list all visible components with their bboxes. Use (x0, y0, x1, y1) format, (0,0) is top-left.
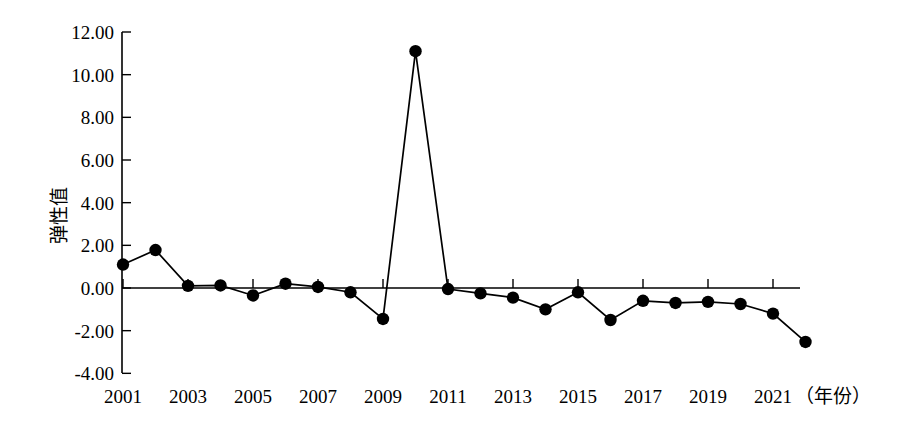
data-point-2009 (377, 313, 389, 325)
x-tick-label-2015: 2015 (559, 386, 597, 407)
data-point-2010 (409, 45, 421, 57)
x-tick-label-2003: 2003 (169, 386, 207, 407)
data-point-2014 (539, 303, 551, 315)
y-tick-label-8.00: 8.00 (81, 107, 114, 128)
data-point-2005 (247, 289, 259, 301)
data-point-2007 (312, 281, 324, 293)
x-axis-unit-label: （年份） (795, 386, 871, 407)
y-axis-title: 弹性值 (49, 187, 70, 244)
data-point-2003 (182, 280, 194, 292)
data-point-2022 (799, 336, 811, 348)
y-tick-label--4.00: -4.00 (74, 363, 114, 384)
data-point-2012 (474, 287, 486, 299)
line-chart: -4.00-2.000.002.004.006.008.0010.0012.00… (0, 0, 902, 428)
data-point-2008 (344, 286, 356, 298)
x-tick-label-2007: 2007 (299, 386, 337, 407)
y-tick-label-4.00: 4.00 (81, 193, 114, 214)
chart-container: -4.00-2.000.002.004.006.008.0010.0012.00… (0, 0, 902, 428)
x-tick-label-2001: 2001 (104, 386, 142, 407)
x-tick-label-2009: 2009 (364, 386, 402, 407)
y-tick-label--2.00: -2.00 (74, 321, 114, 342)
chart-background (0, 0, 902, 428)
x-tick-label-2011: 2011 (429, 386, 466, 407)
y-tick-label-2.00: 2.00 (81, 235, 114, 256)
y-tick-label-6.00: 6.00 (81, 150, 114, 171)
data-point-2011 (442, 283, 454, 295)
data-point-2013 (507, 291, 519, 303)
data-point-2001 (117, 258, 129, 270)
data-point-2017 (637, 295, 649, 307)
data-point-2019 (702, 296, 714, 308)
x-tick-label-2005: 2005 (234, 386, 272, 407)
x-tick-label-2019: 2019 (689, 386, 727, 407)
x-tick-label-2021: 2021 (754, 386, 792, 407)
y-tick-label-0.00: 0.00 (81, 278, 114, 299)
y-tick-label-12.00: 12.00 (71, 22, 114, 43)
data-point-2015 (572, 286, 584, 298)
data-point-2006 (279, 278, 291, 290)
data-point-2021 (767, 307, 779, 319)
x-tick-label-2013: 2013 (494, 386, 532, 407)
data-point-2002 (149, 244, 161, 256)
y-tick-label-10.00: 10.00 (71, 65, 114, 86)
data-point-2018 (669, 297, 681, 309)
data-point-2020 (734, 298, 746, 310)
data-point-2004 (214, 279, 226, 291)
x-tick-label-2017: 2017 (624, 386, 662, 407)
data-point-2016 (604, 314, 616, 326)
